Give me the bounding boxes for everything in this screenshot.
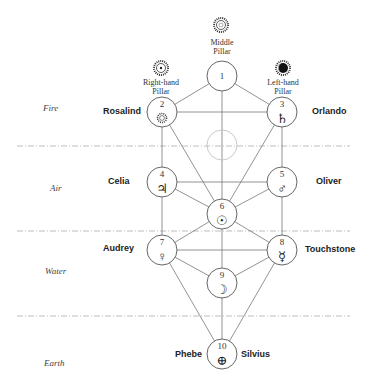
character-oliver: Oliver bbox=[316, 176, 342, 186]
character-rosalind: Rosalind bbox=[103, 106, 141, 116]
element-air: Air bbox=[50, 183, 62, 193]
earth-icon: ⊕ bbox=[212, 354, 232, 367]
tree-diagram-canvas bbox=[0, 0, 366, 387]
middle-pillar-label-line1: Middle bbox=[201, 38, 243, 47]
element-earth: Earth bbox=[44, 358, 65, 368]
node-1-number: 1 bbox=[212, 71, 232, 81]
node-7-number: 7 bbox=[152, 237, 172, 247]
character-celia: Celia bbox=[108, 176, 130, 186]
element-fire: Fire bbox=[43, 103, 58, 113]
venus-icon: ♀ bbox=[152, 250, 172, 263]
character-silvius: Silvius bbox=[241, 349, 270, 359]
left-pillar-label-line1: Left-hand bbox=[258, 78, 308, 87]
node-6-number: 6 bbox=[212, 201, 232, 211]
right-pillar-label: Right-hand Pillar bbox=[136, 78, 186, 96]
moon-icon: ☽ bbox=[212, 283, 232, 296]
middle-pillar-label: Middle Pillar bbox=[201, 38, 243, 56]
right-pillar-label-line1: Right-hand bbox=[136, 78, 186, 87]
mars-icon: ♂ bbox=[272, 182, 292, 195]
jupiter-icon: ♃ bbox=[152, 182, 172, 195]
moon-eclipse-rayed-icon bbox=[276, 61, 290, 75]
node-4-number: 4 bbox=[152, 169, 172, 179]
node-8-number: 8 bbox=[272, 237, 292, 247]
saturn-icon: ♄ bbox=[272, 112, 292, 125]
node-10-number: 10 bbox=[212, 341, 232, 351]
node-3-number: 3 bbox=[272, 99, 292, 109]
node-9-number: 9 bbox=[212, 270, 232, 280]
element-water: Water bbox=[45, 266, 66, 276]
mercury-icon: ☿ bbox=[272, 250, 292, 263]
character-touchstone: Touchstone bbox=[305, 244, 355, 254]
node-2-number: 2 bbox=[152, 99, 172, 109]
sun-icon: ☉ bbox=[212, 214, 232, 227]
left-pillar-label: Left-hand Pillar bbox=[258, 78, 308, 96]
character-phebe: Phebe bbox=[175, 349, 202, 359]
character-orlando: Orlando bbox=[312, 106, 347, 116]
character-audrey: Audrey bbox=[103, 243, 134, 253]
element-dividers bbox=[17, 146, 350, 316]
sun-dot-rayed-icon bbox=[154, 61, 168, 75]
left-pillar-label-line2: Pillar bbox=[258, 87, 308, 96]
node-5-number: 5 bbox=[272, 169, 292, 179]
middle-pillar-label-line2: Pillar bbox=[201, 47, 243, 56]
sun-rayed-icon bbox=[214, 18, 228, 32]
right-pillar-label-line2: Pillar bbox=[136, 87, 186, 96]
